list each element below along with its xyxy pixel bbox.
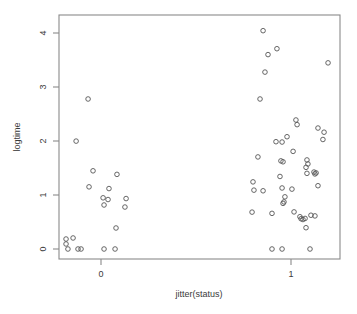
- y-tick-label: 2: [38, 138, 48, 143]
- scatter-plot-figure: 01 01234 jitter(status) logtime: [0, 0, 357, 314]
- x-tick-label: 1: [288, 269, 293, 279]
- x-tick-label: 0: [98, 269, 103, 279]
- plot-background: [0, 0, 357, 314]
- y-tick-label: 4: [38, 30, 48, 35]
- x-axis-title: jitter(status): [174, 289, 222, 299]
- y-tick-label: 0: [38, 246, 48, 251]
- y-axis-title: logtime: [12, 122, 22, 151]
- plot-canvas: 01 01234 jitter(status) logtime: [0, 0, 357, 314]
- y-tick-label: 1: [38, 192, 48, 197]
- y-tick-label: 3: [38, 84, 48, 89]
